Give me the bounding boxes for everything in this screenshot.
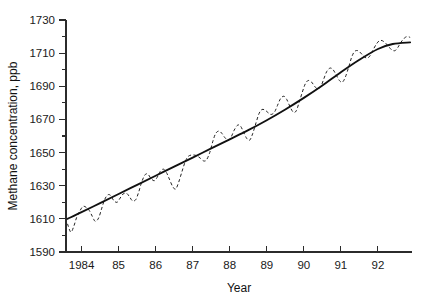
- x-tick-label: 1984: [69, 259, 95, 271]
- x-tick-label: 89: [260, 259, 273, 271]
- y-tick-label: 1650: [29, 147, 55, 159]
- x-tick-label: 87: [186, 259, 199, 271]
- y-tick-label: 1590: [29, 246, 55, 258]
- x-tick-label: 91: [334, 259, 347, 271]
- x-axis: 19848586878889909192: [66, 246, 412, 271]
- y-tick-label: 1710: [29, 47, 55, 59]
- chart-canvas: 15901610163016501670169017101730 1984858…: [0, 0, 424, 304]
- y-tick-label: 1610: [29, 213, 55, 225]
- methane-concentration-chart: 15901610163016501670169017101730 1984858…: [0, 0, 424, 304]
- x-tick-label: 85: [112, 259, 125, 271]
- x-tick-label: 92: [372, 259, 385, 271]
- y-tick-label: 1690: [29, 80, 55, 92]
- x-tick-label: 88: [223, 259, 236, 271]
- x-tick-label: 86: [149, 259, 162, 271]
- data-series-group: [67, 37, 410, 233]
- y-axis-title: Methane concentration, ppb: [6, 61, 20, 210]
- x-tick-label: 90: [297, 259, 310, 271]
- trend-line: [67, 42, 410, 218]
- y-tick-label: 1630: [29, 180, 55, 192]
- y-tick-label: 1670: [29, 113, 55, 125]
- x-axis-title: Year: [227, 281, 251, 295]
- y-tick-label: 1730: [29, 14, 55, 26]
- y-axis: 15901610163016501670169017101730: [29, 14, 66, 258]
